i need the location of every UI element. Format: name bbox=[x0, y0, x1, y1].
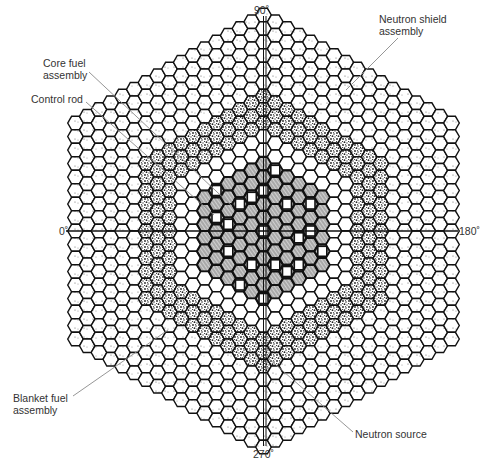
axis-label-270: 270˚ bbox=[253, 448, 274, 460]
callout-control-rod: Control rod bbox=[31, 93, 83, 105]
shield-assembly bbox=[444, 116, 460, 130]
shield-assembly bbox=[444, 157, 460, 171]
control-rod-marker bbox=[271, 165, 280, 175]
axis-label-90: 90˚ bbox=[254, 4, 269, 16]
axis-label-180: 180˚ bbox=[459, 225, 480, 237]
control-rod-marker bbox=[306, 199, 315, 209]
control-rod-marker bbox=[294, 233, 303, 243]
control-rod-marker bbox=[294, 260, 303, 270]
callout-core-fuel-assembly: Core fuel assembly bbox=[43, 57, 87, 81]
control-rod-marker bbox=[271, 260, 280, 270]
shield-assembly bbox=[444, 265, 460, 279]
control-rod-marker bbox=[236, 280, 245, 290]
shield-assembly bbox=[444, 170, 460, 184]
shield-assembly bbox=[444, 305, 460, 319]
control-rod-marker bbox=[236, 199, 245, 209]
shield-assembly bbox=[444, 184, 460, 198]
shield-assembly bbox=[444, 211, 460, 225]
callout-neutron-shield-assembly: Neutron shield assembly bbox=[379, 13, 447, 37]
control-rod-marker bbox=[318, 246, 327, 256]
shield-assembly bbox=[444, 143, 460, 157]
shield-assembly bbox=[444, 319, 460, 333]
shield-assembly bbox=[444, 238, 460, 252]
control-rod-marker bbox=[224, 246, 233, 256]
callout-neutron-source: Neutron source bbox=[355, 428, 427, 440]
control-rod-marker bbox=[224, 219, 233, 229]
callout-blanket-fuel-assembly: Blanket fuel assembly bbox=[13, 392, 68, 416]
reactor-core-diagram: 90˚ 0˚ 180˚ 270˚ Core fuel assembly Cont… bbox=[0, 0, 491, 467]
shield-assembly bbox=[444, 130, 460, 144]
shield-assembly bbox=[444, 292, 460, 306]
shield-assembly bbox=[444, 251, 460, 264]
axis-label-0: 0˚ bbox=[59, 225, 68, 237]
control-rod-marker bbox=[247, 260, 256, 270]
control-rod-marker bbox=[283, 199, 292, 209]
shield-assembly bbox=[444, 332, 460, 346]
control-rod-marker bbox=[283, 267, 292, 277]
shield-assembly bbox=[444, 278, 460, 292]
shield-assembly bbox=[444, 197, 460, 211]
control-rod-marker bbox=[247, 192, 256, 202]
